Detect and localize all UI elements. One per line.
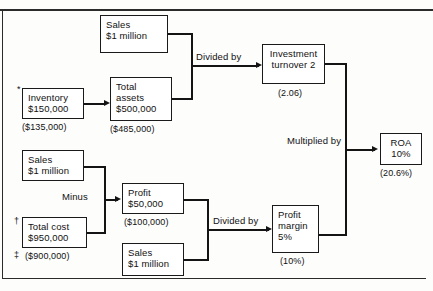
node-investment-turnover-alt: (2.06) — [278, 88, 302, 98]
connector-profit-out — [184, 199, 209, 201]
node-total-cost-line1: Total cost — [28, 221, 81, 232]
footnote-marker-double-dagger: ‡ — [14, 251, 19, 260]
node-total-cost-alt: ($900,000) — [25, 251, 70, 261]
node-total-assets-line3: $500,000 — [116, 103, 166, 114]
node-roa-line2: 10% — [386, 148, 416, 159]
node-sales-bottom: Sales $1 million — [122, 243, 184, 276]
node-sales-mid-line1: Sales — [28, 154, 78, 165]
node-roa-line1: ROA — [386, 137, 416, 148]
connector-investment-turnover-out — [325, 63, 347, 65]
page-rule-left — [2, 10, 3, 278]
connector-inventory-to-total-assets — [84, 103, 105, 105]
operation-label-multiplied-by: Multiplied by — [287, 135, 341, 146]
connector-divided-by-bottom — [207, 229, 269, 231]
node-sales-top-line2: $1 million — [106, 30, 162, 41]
node-profit-line2: $50,000 — [128, 198, 178, 209]
node-total-assets-alt: ($485,000) — [110, 124, 155, 134]
node-profit-alt: ($100,000) — [124, 217, 169, 227]
node-sales-top-line1: Sales — [106, 19, 162, 30]
page-rule-top — [0, 9, 433, 11]
node-profit-margin-line2: margin — [278, 220, 313, 231]
connector-sales-bottom-out — [184, 259, 209, 261]
footnote-marker-dagger: † — [14, 217, 19, 226]
node-total-cost-line2: $950,000 — [28, 232, 81, 243]
node-profit-margin: Profit margin 5% — [272, 205, 319, 253]
node-profit-margin-alt: (10%) — [280, 256, 305, 266]
arrowhead-minus — [115, 196, 121, 202]
node-profit-margin-line1: Profit — [278, 209, 313, 220]
footnote-marker-asterisk: * — [17, 85, 21, 94]
page-rule-bottom — [2, 278, 426, 279]
node-roa-alt: (20.6%) — [380, 168, 412, 178]
connector-profit-margin-out — [319, 234, 347, 236]
node-total-assets-line2: assets — [116, 92, 166, 103]
node-inventory-alt: ($135,000) — [22, 122, 67, 132]
connector-total-assets-out — [172, 98, 193, 100]
node-investment-turnover-line1: Investment — [268, 48, 319, 59]
node-profit: Profit $50,000 — [122, 183, 184, 214]
connector-sales-top-out — [168, 33, 193, 35]
node-sales-mid: Sales $1 million — [22, 150, 84, 181]
operation-label-divided-by-top: Divided by — [196, 51, 241, 62]
node-sales-bottom-line2: $1 million — [128, 258, 178, 269]
node-profit-margin-line3: 5% — [278, 231, 313, 242]
operation-label-divided-by-bottom: Divided by — [213, 215, 258, 226]
node-roa: ROA 10% — [380, 133, 422, 165]
diagram-canvas: Sales $1 million * Inventory $150,000 ($… — [0, 0, 433, 291]
node-inventory-line2: $150,000 — [28, 103, 78, 114]
node-inventory: Inventory $150,000 — [22, 88, 84, 119]
node-total-cost: Total cost $950,000 — [22, 217, 87, 248]
operation-label-minus: Minus — [62, 191, 88, 202]
node-sales-bottom-line1: Sales — [128, 247, 178, 258]
connector-divided-by-top — [191, 65, 259, 67]
node-sales-top: Sales $1 million — [100, 15, 168, 53]
node-inventory-line1: Inventory — [28, 92, 78, 103]
node-sales-mid-line2: $1 million — [28, 165, 78, 176]
node-investment-turnover-line2: turnover 2 — [268, 59, 319, 70]
node-total-assets-line1: Total — [116, 81, 166, 92]
connector-multiplied-by — [345, 149, 375, 151]
node-investment-turnover: Investment turnover 2 — [262, 44, 325, 84]
arrowhead-multiplied-by — [372, 146, 378, 152]
connector-sales-mid-out — [84, 166, 106, 168]
node-profit-line1: Profit — [128, 187, 178, 198]
node-total-assets: Total assets $500,000 — [110, 77, 172, 121]
